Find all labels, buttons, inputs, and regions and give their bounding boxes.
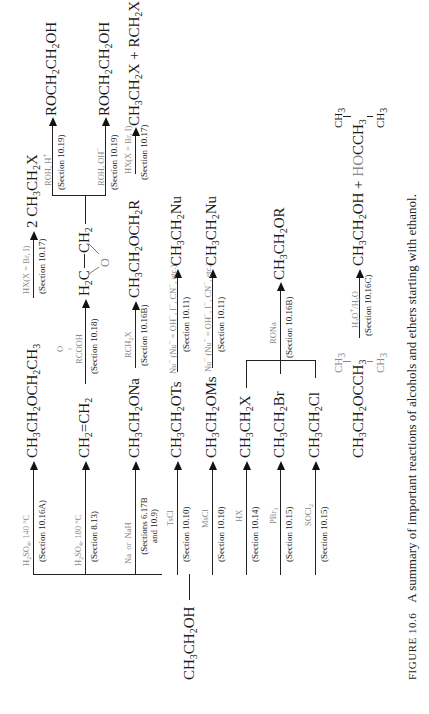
product-5: CH3CH2X	[238, 395, 253, 458]
reagent-3: TsCl	[166, 510, 175, 526]
product-8b-bottom: CH3	[373, 108, 388, 128]
reagent-1d: ROH, OH−	[94, 148, 106, 186]
arrow-0	[33, 468, 34, 575]
product-8-bond-bottom	[367, 361, 373, 362]
figure-caption: FIGURE 10.6A summary of important reacti…	[404, 194, 420, 680]
arrowhead-7	[312, 461, 320, 470]
section-2c: (Section 10.17)	[139, 125, 149, 181]
reagent-5: HX	[235, 510, 244, 522]
product-8-top: CH3	[331, 353, 346, 373]
product-8-bond-top	[343, 361, 351, 362]
product-8b-top: CH3	[331, 108, 346, 128]
arrowhead-merge	[277, 282, 285, 291]
arrow-2c	[135, 134, 136, 174]
reagent-merge: RONa	[269, 322, 278, 344]
product-4: CH3CH2OMs	[204, 376, 219, 458]
arrow-7	[315, 468, 316, 575]
product-1c: ROCH2CH2OH	[44, 22, 59, 116]
arrowhead-0	[30, 461, 38, 470]
figure-number: FIGURE 10.6	[406, 613, 418, 680]
arrow-5	[246, 468, 247, 575]
product-3: CH3CH2OTs	[169, 382, 184, 458]
section-2b: (Section 10.16B)	[139, 305, 149, 367]
arrowhead-2	[132, 461, 140, 470]
arrow-1b	[85, 306, 86, 384]
section-1d: (Section 10.19)	[109, 135, 119, 191]
product-4b: CH3CH2Nu	[204, 196, 219, 266]
reagent-0b: HX(X = Br, I)	[22, 246, 31, 294]
arrowhead-1	[82, 461, 90, 470]
section-3: (Section 10.10)	[181, 507, 191, 563]
arrow-2	[135, 468, 136, 575]
product-merge: CH3CH2OR	[272, 207, 287, 280]
product-2b: CH3CH2OCH2R	[127, 200, 142, 298]
section-1b: (Section 10.18)	[89, 319, 99, 375]
reagent-2c: HX(X = Br, I)	[124, 126, 133, 174]
epoxide-bond	[84, 254, 85, 268]
reagent-1: H2SO4, 180 °C	[74, 515, 83, 566]
reagent-0: H2SO4, 140 °C	[22, 515, 31, 566]
start-connector	[189, 574, 190, 600]
product-7: CH3CH2Cl	[307, 392, 322, 458]
section-6: (Section 10.15)	[284, 507, 294, 563]
section-2: (Sections 6.17Band 10.9)	[139, 486, 159, 566]
product-2c: CH3CH2X + RCH2X	[127, 1, 142, 126]
reagent-2b: RCH2X	[124, 331, 133, 358]
split-connector	[85, 196, 86, 224]
merge-top	[246, 360, 247, 388]
section-1: (Section 8.13)	[89, 511, 99, 562]
arrowhead-5	[243, 461, 251, 470]
reagent-2: Na or NaH	[124, 522, 133, 564]
section-0b: (Section 10.17)	[37, 239, 47, 295]
figure-stage: CH3CH2OH H2SO4, 140 °C (Section 10.16A) …	[0, 0, 429, 714]
section-1c: (Section 10.19)	[56, 135, 66, 191]
caption-text: A summary of important reactions of alco…	[404, 194, 419, 603]
epoxide-ring-bonds	[88, 238, 102, 278]
product-2: CH3CH2ONa	[127, 378, 142, 458]
merge-bottom	[315, 360, 316, 378]
reagent-1b-top: O	[56, 324, 65, 374]
reagent-6: PBr3	[269, 508, 278, 524]
arrowhead-3	[174, 461, 182, 470]
arrowhead-1c	[49, 117, 57, 126]
reagent-1c: ROH, H+	[41, 154, 53, 186]
product-6: CH3CH2Br	[272, 391, 287, 458]
product-8b-bond-top	[343, 116, 351, 117]
section-merge: (Section 10.16B)	[284, 297, 294, 359]
product-0: CH3CH2OCH2CH3	[25, 344, 40, 458]
product-3b: CH3CH2Nu	[169, 196, 184, 266]
product-1: CH2=CH2	[77, 398, 92, 458]
product-0b: 2 CH3CH2X	[25, 154, 40, 228]
split-vertical-lower	[86, 195, 106, 196]
reagent-8b: H3O+/H2O	[348, 291, 360, 328]
merge-mid	[280, 360, 281, 374]
arrow-0b	[33, 238, 34, 298]
arrow-4	[212, 468, 213, 575]
arrow-2b	[135, 308, 136, 368]
section-0: (Section 10.16A)	[37, 500, 47, 562]
section-4b: (Section 10.11)	[216, 297, 226, 352]
arrowhead-1d	[102, 117, 110, 126]
reagent-3b: Nu− (Nu− = OH−, I−, CN−, etc.)	[166, 265, 178, 374]
arrowhead-1b	[82, 299, 90, 308]
arrow-1	[85, 468, 86, 575]
start-ethanol: CH3CH2OH	[182, 607, 197, 680]
arrowhead-4	[209, 461, 217, 470]
arrowhead-6	[277, 461, 285, 470]
reagent-4b: Nu− (Nu− = OH−, I−, CN−, etc.)	[201, 263, 213, 372]
reagent-1b: RCOOH	[75, 324, 84, 374]
section-8b: (Section 10.16C)	[363, 275, 373, 337]
product-8b-main: CH3CH2OH + HOCCH3	[351, 119, 366, 266]
section-5: (Section 10.14)	[250, 507, 260, 563]
section-4: (Section 10.10)	[216, 507, 226, 563]
arrow-6	[280, 468, 281, 575]
section-3b: (Section 10.11)	[181, 297, 191, 352]
reagent-4: MsCl	[201, 509, 210, 528]
arrow-3	[177, 468, 178, 575]
product-8-main: CH3CH2OCCH3	[351, 360, 366, 458]
reagent-7: SOCl2	[304, 504, 313, 526]
product-8b-bond-bottom	[367, 116, 373, 117]
section-7: (Section 10.15)	[319, 507, 329, 563]
split-vertical	[52, 195, 86, 196]
product-8-bottom: CH3	[373, 353, 388, 373]
